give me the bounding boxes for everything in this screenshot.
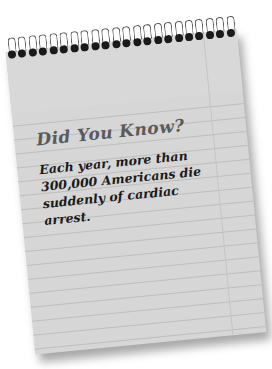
notepad-title: Did You Know? [35,115,185,149]
spiral-coil-icon [121,26,131,51]
notepad: Did You Know? Each year, more than 300,0… [6,29,267,354]
spiral-coil-icon [6,37,16,62]
spiral-coil-icon [204,18,214,43]
spiral-coil-icon [194,19,204,44]
spiral-coil-icon [100,28,110,53]
fact-text: Each year, more than 300,000 Americans d… [39,144,225,229]
spiral-coil-icon [17,36,27,61]
spiral-coil-icon [163,22,173,47]
spiral-coil-icon [183,20,193,45]
spiral-coil-icon [173,21,183,46]
spiral-coil-icon [111,27,121,52]
spiral-coil-icon [69,31,79,56]
spiral-coil-icon [48,33,58,58]
spiral-coil-icon [58,32,68,57]
spiral-coil-icon [27,35,37,60]
spiral-coil-icon [152,23,162,48]
spiral-coil-icon [79,30,89,55]
spiral-coil-icon [225,16,235,41]
spiral-coil-icon [215,17,225,42]
spiral-coil-icon [90,29,100,54]
spiral-coil-icon [142,24,152,49]
spiral-coil-icon [131,25,141,50]
spiral-coil-icon [38,34,48,59]
